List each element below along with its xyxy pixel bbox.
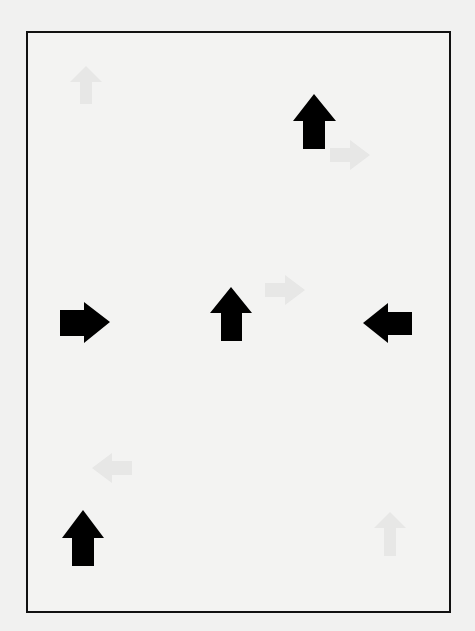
ghost-arrow-right-icon [330, 140, 370, 170]
arrow-right-icon [60, 302, 110, 343]
ghost-arrow-left-icon [92, 453, 132, 483]
arrow-up-icon [293, 94, 336, 149]
ghost-arrow-right-icon [265, 275, 305, 305]
ghost-arrow-up-icon [70, 66, 102, 104]
arrow-up-icon [210, 287, 252, 341]
ghost-arrow-up-icon [374, 512, 406, 556]
arrow-up-icon [62, 510, 104, 566]
stimulus-canvas [0, 0, 475, 631]
arrow-layer [0, 0, 475, 631]
arrow-left-icon [363, 303, 412, 343]
